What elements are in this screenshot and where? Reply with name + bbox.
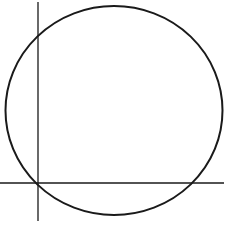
diagram-canvas	[0, 0, 225, 231]
